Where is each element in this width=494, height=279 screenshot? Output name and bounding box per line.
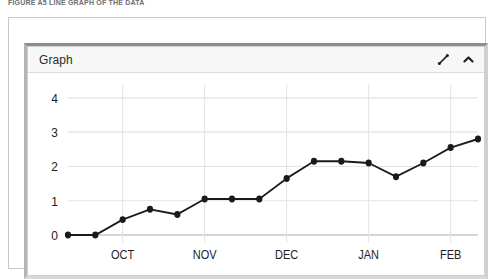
- graph-panel-frame: Graph: [24, 43, 488, 279]
- x-tick-label: JAN: [358, 248, 379, 262]
- y-tick-label: 4: [51, 91, 58, 106]
- panel-title: Graph: [39, 53, 73, 67]
- x-tick-label: FEB: [440, 248, 462, 262]
- data-point: [338, 158, 344, 165]
- data-point: [420, 160, 426, 167]
- plot-area: 01234OCTNOVDECJANFEB: [28, 73, 484, 275]
- figure-caption: FIGURE A5 LINE GRAPH OF THE DATA: [8, 0, 308, 7]
- y-tick-label: 0: [51, 228, 58, 243]
- data-point: [366, 160, 372, 167]
- y-tick-label: 2: [51, 160, 58, 175]
- x-tick-label: DEC: [275, 248, 298, 262]
- expand-icon[interactable]: [437, 53, 450, 66]
- data-point: [174, 211, 180, 218]
- figure-outer-box: Graph: [8, 17, 486, 269]
- chevron-up-icon[interactable]: [462, 53, 475, 66]
- panel-header: Graph: [28, 47, 484, 73]
- graph-panel: Graph: [27, 46, 485, 276]
- line-chart: 01234OCTNOVDECJANFEB: [28, 73, 484, 275]
- data-point: [475, 136, 481, 143]
- data-point: [120, 216, 126, 223]
- x-tick-label: OCT: [111, 248, 134, 262]
- data-point: [311, 158, 317, 165]
- panel-header-actions: [437, 53, 475, 66]
- x-tick-label: NOV: [193, 248, 217, 262]
- data-point: [147, 206, 153, 213]
- data-point: [92, 232, 98, 239]
- y-tick-label: 1: [51, 194, 58, 209]
- data-point: [284, 175, 290, 182]
- data-point: [448, 144, 454, 151]
- data-point: [393, 173, 399, 180]
- data-point: [229, 196, 235, 203]
- data-point: [202, 196, 208, 203]
- data-point: [256, 196, 262, 203]
- y-tick-label: 3: [51, 126, 58, 141]
- data-point: [65, 232, 71, 239]
